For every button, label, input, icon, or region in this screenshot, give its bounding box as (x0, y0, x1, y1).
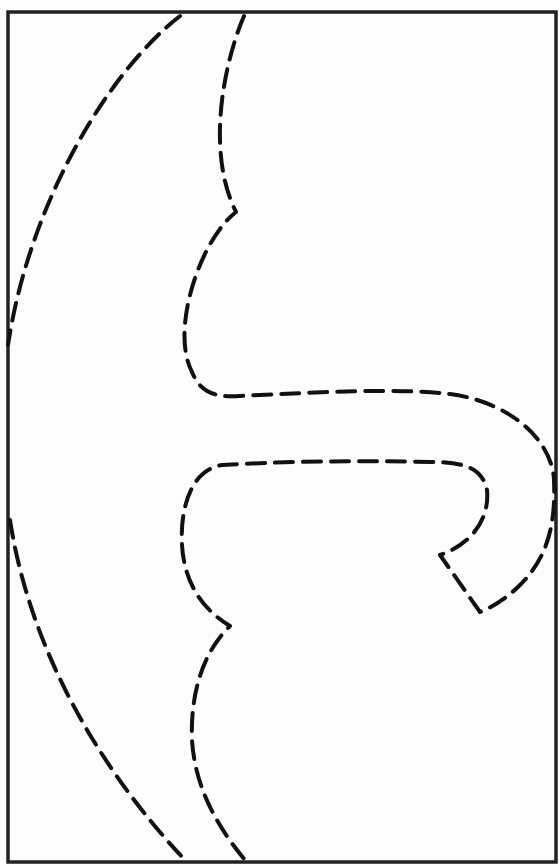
pattern-template (0, 0, 560, 866)
pattern-page (0, 0, 560, 866)
inner-outline-cut-line (182, 16, 554, 860)
outer-arc-cut-line (8, 16, 185, 860)
